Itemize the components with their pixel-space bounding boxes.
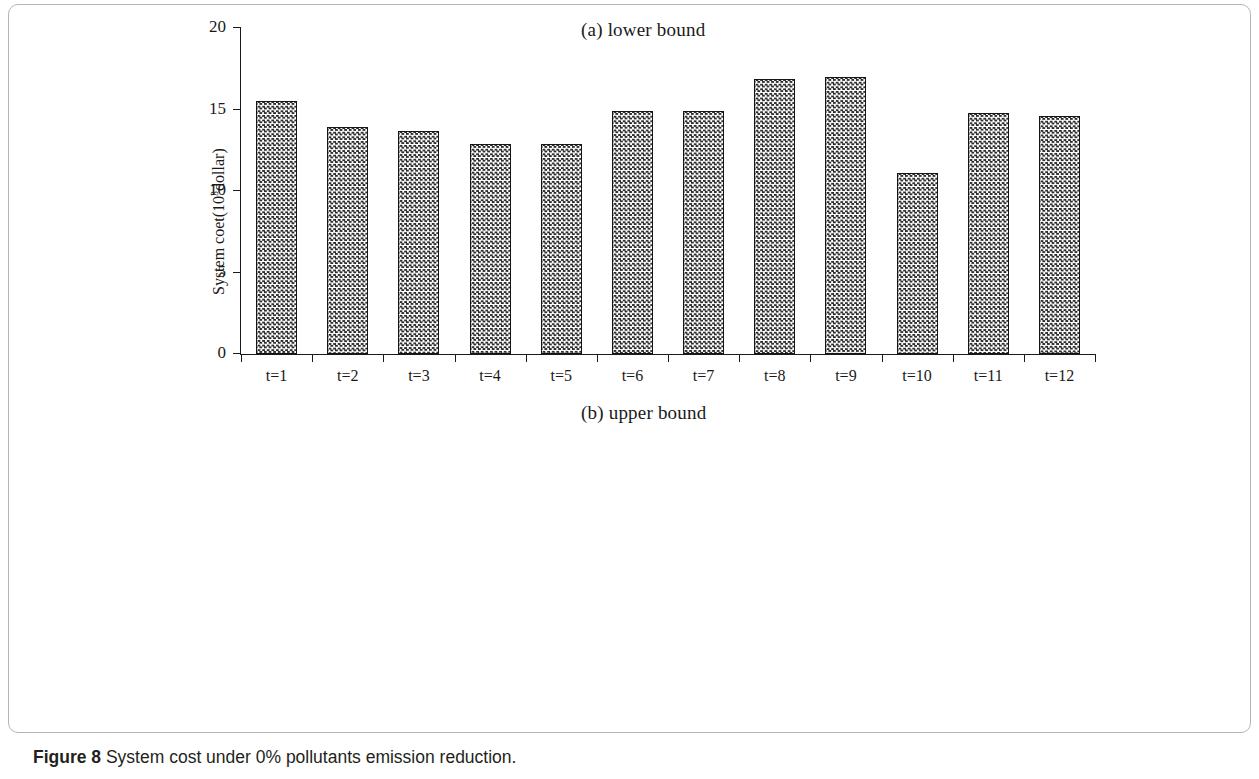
x-tick (810, 354, 811, 362)
x-tick (526, 354, 527, 362)
figure-caption: Figure 8 System cost under 0% pollutants… (33, 747, 1233, 768)
panel-a-y-tick: 20 (233, 27, 241, 28)
panel-a-y-tick: 5 (233, 272, 241, 273)
x-axis-label: t=4 (479, 367, 500, 385)
x-axis-label: t=12 (1045, 367, 1074, 385)
panel-a-y-tick: 0 (233, 353, 241, 354)
x-axis-label: t=5 (551, 367, 572, 385)
x-tick (383, 354, 384, 362)
panel-a-plot-area: 05101520t=1t=2t=3t=4t=5t=6t=7t=8t=9t=10t… (240, 28, 1095, 355)
x-axis-label: t=7 (693, 367, 714, 385)
y-tick-label: 5 (218, 262, 227, 282)
x-axis-label: t=8 (764, 367, 785, 385)
x-axis-label: t=6 (622, 367, 643, 385)
figure-frame: (a) lower bound System coet(103dollar) 0… (8, 4, 1251, 733)
x-axis-label: t=1 (266, 367, 287, 385)
x-tick (668, 354, 669, 362)
bar (825, 77, 866, 354)
x-tick (882, 354, 883, 362)
bar (897, 173, 938, 354)
bar (256, 101, 297, 354)
panel-a-y-tick: 10 (233, 190, 241, 191)
bar (327, 127, 368, 354)
x-tick (953, 354, 954, 362)
bar (683, 111, 724, 354)
chart-panel-lower-bound: (a) lower bound System coet(103dollar) 0… (9, 5, 1252, 387)
x-tick (1095, 354, 1096, 362)
x-tick (1024, 354, 1025, 362)
x-axis-label: t=11 (974, 367, 1003, 385)
y-tick-label: 20 (209, 17, 226, 37)
chart-panel-upper-bound: (b) upper bound System cost(103dollar) 0… (9, 390, 1252, 730)
x-axis-label: t=2 (337, 367, 358, 385)
bar (612, 111, 653, 354)
x-tick (597, 354, 598, 362)
bar (754, 79, 795, 354)
y-tick-label: 10 (209, 180, 226, 200)
figure-caption-label: Figure 8 (33, 747, 101, 767)
x-tick (241, 354, 242, 362)
bar (1039, 116, 1080, 354)
x-axis-label: t=10 (902, 367, 931, 385)
x-axis-label: t=3 (408, 367, 429, 385)
x-tick (455, 354, 456, 362)
y-tick-label: 15 (209, 99, 226, 119)
x-axis-label: t=9 (835, 367, 856, 385)
panel-a-y-tick: 15 (233, 109, 241, 110)
x-tick (312, 354, 313, 362)
x-tick (739, 354, 740, 362)
bar (398, 131, 439, 354)
bar (470, 144, 511, 354)
bar (541, 144, 582, 354)
figure-caption-text: System cost under 0% pollutants emission… (101, 747, 516, 767)
panel-b-title: (b) upper bound (581, 402, 706, 424)
y-tick-label: 0 (218, 343, 227, 363)
bar (968, 113, 1009, 354)
